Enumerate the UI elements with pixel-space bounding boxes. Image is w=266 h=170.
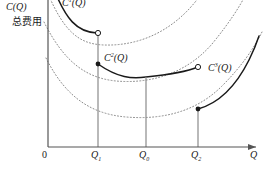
curve-label-c2-base: C: [104, 52, 111, 63]
curve-label-c3-paren: (Q): [218, 62, 232, 73]
origin-label: 0: [42, 150, 47, 160]
x-tick-label-q0: Q0: [139, 150, 149, 162]
y-axis-label-chinese: 总费用: [12, 16, 24, 27]
x-tick-label-q2-subscript: 2: [198, 156, 201, 162]
y-axis-label: C(Q): [6, 2, 27, 12]
curve-label-c3: C3(Q): [208, 62, 232, 73]
x-tick-label-q1: Q1: [91, 150, 101, 162]
origin-label-text: 0: [42, 149, 47, 160]
curve-label-c1-base: C: [62, 0, 69, 8]
marker-open-q2: [195, 64, 200, 69]
curve-label-c2-paren: (Q): [114, 52, 128, 63]
curve-label-c3-base: C: [208, 62, 215, 73]
curve-label-c2: C2(Q): [104, 52, 128, 63]
marker-closed-q1: [96, 62, 101, 67]
x-axis-label: Q: [250, 150, 257, 160]
marker-open-q1: [95, 30, 100, 35]
x-tick-label-q2: Q2: [191, 150, 201, 162]
y-axis-label-chinese-text: 总费用: [12, 16, 42, 27]
cost-curve-figure: C(Q) 总费用 C1(Q) C2(Q) C3(Q) 0 Q1 Q0 Q2 Q: [0, 0, 266, 170]
curve-c2-solid: [98, 64, 198, 78]
curve-c3-dotted: [46, 32, 262, 118]
x-tick-label-q0-subscript: 0: [146, 156, 149, 162]
marker-closed-q2: [196, 107, 201, 112]
curve-label-c1-paren: (Q): [72, 0, 86, 8]
x-tick-label-q1-subscript: 1: [98, 156, 101, 162]
x-axis-label-text: Q: [250, 149, 257, 160]
curve-label-c1: C1(Q): [62, 0, 86, 8]
y-axis-label-text: C(Q): [6, 1, 27, 12]
